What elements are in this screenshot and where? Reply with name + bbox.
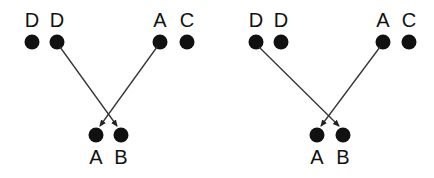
node-right-bottom-a: [310, 128, 325, 143]
node-left-bottom-b: [114, 128, 129, 143]
label-right-top-d2: D: [274, 10, 288, 30]
node-left-top-d2: [50, 35, 65, 50]
label-right-top-a: A: [376, 10, 389, 30]
right-panel: [249, 35, 417, 143]
label-left-top-d1: D: [25, 10, 39, 30]
diagram-canvas: [0, 0, 434, 178]
node-left-bottom-a: [89, 128, 104, 143]
label-right-top-d1: D: [249, 10, 263, 30]
label-right-top-c: C: [402, 10, 416, 30]
label-left-bottom-a: A: [89, 147, 102, 167]
node-right-top-c: [402, 35, 417, 50]
label-left-top-d2: D: [50, 10, 64, 30]
arrow-left-a-to-a: [100, 47, 157, 126]
node-right-top-a: [376, 35, 391, 50]
node-right-top-d2: [274, 35, 289, 50]
node-left-top-c: [180, 35, 195, 50]
node-right-bottom-b: [336, 128, 351, 143]
arrow-right-a-to-a: [321, 47, 380, 126]
node-right-top-d1: [249, 35, 264, 50]
arrow-right-d-to-b: [259, 47, 339, 126]
label-right-bottom-b: B: [336, 147, 349, 167]
label-left-bottom-b: B: [114, 147, 127, 167]
label-left-top-a: A: [153, 10, 166, 30]
node-left-top-a: [153, 35, 168, 50]
label-right-bottom-a: A: [310, 147, 323, 167]
node-left-top-d1: [25, 35, 40, 50]
left-panel: [25, 35, 195, 143]
label-left-top-c: C: [180, 10, 194, 30]
